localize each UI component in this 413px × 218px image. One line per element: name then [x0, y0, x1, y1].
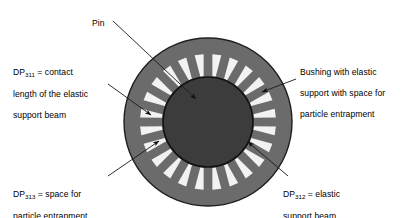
label-bushing-line3: particle entrapment — [300, 109, 385, 119]
label-dp311: DP311 = contact length of the elastic su… — [13, 57, 88, 131]
label-dp313-line1: DP313 = space for — [13, 189, 88, 200]
label-dp311-subscript: 311 — [25, 71, 35, 78]
label-pin: Pin — [92, 8, 105, 29]
label-dp311-line3: support beam — [13, 110, 88, 120]
diagram-graphics — [124, 38, 292, 206]
label-dp313-prefix: DP — [13, 189, 25, 199]
label-dp311-line2: length of the elastic — [13, 89, 88, 99]
label-dp313-rest: = space for — [35, 189, 81, 199]
label-bushing-line2: support with space for — [300, 88, 385, 98]
label-dp312-line1: DP312 = elastic — [283, 189, 340, 200]
label-dp312-subscript: 312 — [295, 193, 305, 200]
label-dp312-line2: support beam — [283, 211, 340, 218]
label-dp313: DP313 = space for particle entrapment — [13, 179, 88, 218]
label-bushing-line1: Bushing with elastic — [300, 67, 385, 77]
label-pin-text: Pin — [92, 18, 105, 28]
label-dp311-rest: = contact — [35, 67, 73, 77]
label-dp312-prefix: DP — [283, 189, 295, 199]
label-dp313-line2: particle entrapment — [13, 211, 88, 218]
figure-container: Pin DP311 = contact length of the elasti… — [0, 0, 413, 218]
label-dp313-subscript: 313 — [25, 193, 35, 200]
label-dp312: DP312 = elastic support beam — [283, 179, 340, 218]
label-dp311-line1: DP311 = contact — [13, 67, 88, 78]
label-dp312-rest: = elastic — [305, 189, 340, 199]
label-dp311-prefix: DP — [13, 67, 25, 77]
pin-inner-circle — [163, 77, 253, 167]
label-bushing: Bushing with elastic support with space … — [300, 57, 385, 130]
